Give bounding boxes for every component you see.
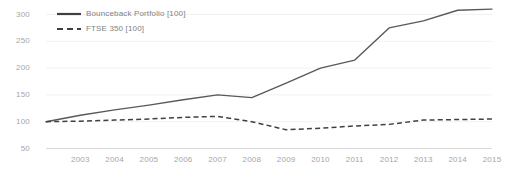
x-tick-label: 2009	[269, 156, 303, 164]
y-tick-label: 300	[6, 11, 30, 19]
y-tick-label: 100	[6, 118, 30, 126]
legend-label-bounceback-portfolio: Bounceback Portfolio [100]	[86, 10, 186, 18]
x-tick-label: 2014	[441, 156, 475, 164]
x-tick-label: 2010	[303, 156, 337, 164]
legend-swatch-dashed-icon	[57, 24, 83, 34]
x-tick-label: 2008	[235, 156, 269, 164]
chart-legend: Bounceback Portfolio [100] FTSE 350 [100…	[57, 9, 186, 34]
x-tick-label: 2006	[166, 156, 200, 164]
series-line-ftse-350	[46, 116, 492, 129]
legend-swatch-solid-icon	[57, 9, 83, 19]
y-tick-label: 150	[6, 91, 30, 99]
y-tick-label: 200	[6, 64, 30, 72]
x-tick-label: 2011	[338, 156, 372, 164]
y-tick-label: 250	[6, 37, 30, 45]
x-tick-label: 2012	[372, 156, 406, 164]
x-tick-label: 2003	[63, 156, 97, 164]
x-tick-label: 2013	[406, 156, 440, 164]
x-tick-label: 2015	[475, 156, 506, 164]
x-tick-label: 2007	[201, 156, 235, 164]
y-tick-label: 50	[6, 145, 30, 153]
legend-item-ftse-350: FTSE 350 [100]	[57, 24, 186, 34]
legend-label-ftse-350: FTSE 350 [100]	[86, 25, 144, 33]
gridlines	[46, 15, 492, 149]
x-tick-label: 2004	[98, 156, 132, 164]
x-tick-label: 2005	[132, 156, 166, 164]
legend-item-bounceback-portfolio: Bounceback Portfolio [100]	[57, 9, 186, 19]
